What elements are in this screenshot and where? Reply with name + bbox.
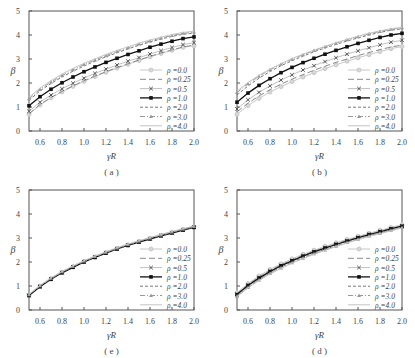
y-tick-label: 1 (224, 282, 228, 291)
legend-item-label: ρ =0.25 (374, 254, 399, 263)
x-tick-label: 1.2 (309, 317, 319, 326)
y-tick-label: 2 (224, 258, 228, 267)
chart-panel-d: 0123450.60.81.01.21.41.61.82.0βγR( d )ρ … (208, 179, 415, 358)
legend-item-label: ρ =0.0 (166, 245, 187, 254)
x-tick-label: 0.6 (243, 317, 253, 326)
y-tick-label: 4 (224, 210, 228, 219)
y-tick-label: 1 (224, 103, 228, 112)
chart-svg-d: 0123450.60.81.01.21.41.61.82.0βγR( d )ρ … (208, 179, 415, 358)
x-tick-label: 1.0 (287, 317, 297, 326)
legend-item-label: ρ =3.0 (166, 113, 187, 122)
y-tick-label: 0 (224, 306, 228, 315)
x-tick-label: 1.2 (101, 138, 111, 147)
chart-panel-b: 0123450.60.81.01.21.41.61.82.0βγR( b )ρ … (208, 0, 415, 179)
legend-item-label: ρ =0.25 (166, 75, 191, 84)
legend-item-label: ρ =0.25 (166, 254, 191, 263)
x-tick-label: 2.0 (397, 138, 407, 147)
legend-item-label: ρ =4.0 (166, 301, 187, 310)
y-tick-label: 5 (16, 186, 20, 195)
y-tick-label: 2 (224, 79, 228, 88)
x-tick-label: 1.2 (309, 138, 319, 147)
y-tick-label: 0 (16, 306, 20, 315)
legend-item-label: ρ =0.0 (166, 66, 187, 75)
chart-svg-b: 0123450.60.81.01.21.41.61.82.0βγR( b )ρ … (208, 0, 415, 179)
x-axis-label: γR (107, 330, 117, 340)
legend-item-label: ρ =2.0 (374, 103, 395, 112)
x-tick-label: 2.0 (189, 317, 199, 326)
legend-item-label: ρ =0.25 (374, 75, 399, 84)
x-tick-label: 1.6 (353, 317, 363, 326)
y-axis-label: β (10, 244, 16, 255)
y-tick-label: 5 (224, 186, 228, 195)
x-tick-label: 0.8 (265, 138, 275, 147)
legend-item-label: ρ =1.0 (374, 94, 395, 103)
y-axis-label: β (218, 244, 224, 255)
x-tick-label: 1.4 (331, 317, 341, 326)
legend-item-label: ρ =0.5 (374, 85, 395, 94)
legend-item-label: ρ =0.0 (374, 245, 395, 254)
legend-item-label: ρ =4.0 (374, 301, 395, 310)
y-tick-label: 5 (224, 7, 228, 16)
y-tick-label: 0 (224, 127, 228, 136)
y-tick-label: 3 (224, 234, 228, 243)
legend-item-label: ρ =2.0 (166, 282, 187, 291)
legend-item-label: ρ =0.5 (166, 264, 187, 273)
legend-item-label: ρ =3.0 (166, 292, 187, 301)
x-tick-label: 1.8 (375, 138, 385, 147)
x-tick-label: 0.8 (57, 317, 67, 326)
x-tick-label: 0.8 (57, 138, 67, 147)
legend: ρ =0.0ρ =0.25ρ =0.5ρ =1.0ρ =2.0ρ =3.0ρ =… (140, 66, 191, 131)
y-tick-label: 3 (224, 55, 228, 64)
x-tick-label: 1.4 (123, 317, 133, 326)
y-tick-label: 5 (16, 7, 20, 16)
x-tick-label: 1.2 (101, 317, 111, 326)
y-tick-label: 4 (224, 31, 228, 40)
legend-item-label: ρ =0.0 (374, 66, 395, 75)
legend: ρ =0.0ρ =0.25ρ =0.5ρ =1.0ρ =2.0ρ =3.0ρ =… (348, 245, 399, 310)
x-tick-label: 1.8 (167, 317, 177, 326)
x-tick-label: 2.0 (189, 138, 199, 147)
x-tick-label: 1.6 (145, 317, 155, 326)
legend: ρ =0.0ρ =0.25ρ =0.5ρ =1.0ρ =2.0ρ =3.0ρ =… (140, 245, 191, 310)
x-tick-label: 1.0 (287, 138, 297, 147)
legend: ρ =0.0ρ =0.25ρ =0.5ρ =1.0ρ =2.0ρ =3.0ρ =… (348, 66, 399, 131)
x-tick-label: 1.0 (79, 138, 89, 147)
y-tick-label: 2 (16, 79, 20, 88)
legend-item-label: ρ =1.0 (374, 273, 395, 282)
y-tick-label: 2 (16, 258, 20, 267)
panel-label: ( d ) (312, 346, 327, 356)
panel-label: ( a ) (104, 167, 119, 177)
panel-label: ( e ) (104, 346, 119, 356)
y-axis-label: β (10, 65, 16, 76)
x-tick-label: 1.4 (331, 138, 341, 147)
x-tick-label: 1.6 (353, 138, 363, 147)
x-tick-label: 1.6 (145, 138, 155, 147)
legend-item-label: ρ =0.5 (374, 264, 395, 273)
chart-panel-c: 0123450.60.81.01.21.41.61.82.0βγR( e )ρ … (0, 179, 207, 358)
y-tick-label: 4 (16, 210, 20, 219)
legend-item-label: ρ =1.0 (166, 273, 187, 282)
chart-panel-a: 0123450.60.81.01.21.41.61.82.0βγR( a )ρ … (0, 0, 207, 179)
y-tick-label: 1 (16, 282, 20, 291)
panel-label: ( b ) (312, 167, 327, 177)
x-tick-label: 0.6 (243, 138, 253, 147)
x-tick-label: 0.6 (35, 317, 45, 326)
chart-svg-c: 0123450.60.81.01.21.41.61.82.0βγR( e )ρ … (0, 179, 207, 358)
x-axis-label: γR (107, 151, 117, 161)
legend-item-label: ρ =4.0 (374, 122, 395, 131)
y-tick-label: 1 (16, 103, 20, 112)
legend-item-label: ρ =0.5 (166, 85, 187, 94)
x-tick-label: 1.4 (123, 138, 133, 147)
x-axis-label: γR (315, 330, 325, 340)
legend-item-label: ρ =3.0 (374, 113, 395, 122)
x-tick-label: 1.8 (375, 317, 385, 326)
legend-item-label: ρ =4.0 (166, 122, 187, 131)
x-tick-label: 1.0 (79, 317, 89, 326)
legend-item-label: ρ =1.0 (166, 94, 187, 103)
y-tick-label: 4 (16, 31, 20, 40)
chart-svg-a: 0123450.60.81.01.21.41.61.82.0βγR( a )ρ … (0, 0, 207, 179)
x-tick-label: 0.6 (35, 138, 45, 147)
y-tick-label: 0 (16, 127, 20, 136)
x-tick-label: 0.8 (265, 317, 275, 326)
y-tick-label: 3 (16, 55, 20, 64)
